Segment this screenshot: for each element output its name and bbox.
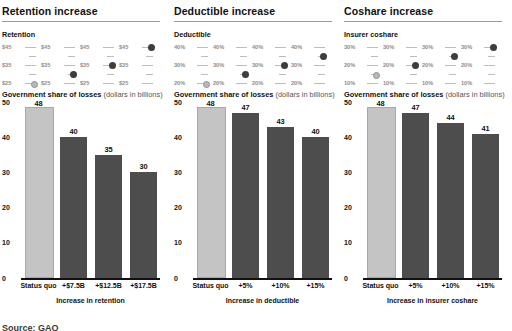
scale-column-status-quo: $45$35$25 [2, 43, 41, 83]
scale-tick-major: 40% [174, 43, 213, 52]
scale-tick-label: 20% [174, 79, 185, 88]
scale-tick-minor [461, 52, 500, 61]
scale-tick-label: 30% [461, 43, 472, 52]
scale-tick-mark [201, 56, 208, 57]
scale-tick-minor [291, 70, 330, 79]
y-axis-tick-30: 30 [2, 169, 17, 176]
scale-tick-label: $35 [2, 61, 11, 70]
scale-tick-label: 20% [461, 61, 472, 70]
scale-tick-label: $25 [119, 79, 128, 88]
bar-15[interactable] [472, 134, 499, 278]
scale-tick-major: $25 [119, 79, 158, 88]
x-axis-line [363, 278, 502, 280]
y-axis-tick-30: 30 [174, 169, 189, 176]
scale-tick-major: 20% [344, 61, 383, 70]
scale-tick-minor [119, 52, 158, 61]
scale-indicator: 30%20%10%30%20%10%30%20%10%30%20%10% [344, 43, 502, 83]
scale-tick-mark [107, 56, 114, 57]
scale-tick-major: $45 [80, 43, 119, 52]
source-note: Source: GAO [2, 323, 59, 331]
scale-tick-minor [41, 52, 80, 61]
scale-tick-mark [103, 47, 114, 48]
scale-tick-label: 20% [213, 79, 224, 88]
scale-tick-mark [314, 47, 325, 48]
bar-value-label: 47 [228, 103, 263, 112]
y-axis-tick-20: 20 [174, 204, 189, 211]
bar-status-quo[interactable] [25, 107, 54, 278]
scale-dot-5 [412, 62, 419, 69]
bar-12-5b[interactable] [95, 155, 122, 278]
chart-heading-units: (dollars in billions) [273, 90, 334, 99]
scale-tick-mark [146, 56, 153, 57]
scale-tick-minor [461, 70, 500, 79]
y-axis-tick-0: 0 [2, 275, 17, 282]
bar-value-label: 48 [193, 99, 228, 108]
scale-tick-major: 30% [291, 61, 330, 70]
bar-5[interactable] [402, 113, 429, 278]
scale-tick-major: 30% [344, 43, 383, 52]
x-axis-line [21, 278, 160, 280]
scale-column-status-quo: 30%20%10% [344, 43, 383, 83]
scale-tick-minor [344, 52, 383, 61]
scale-dot-10 [451, 53, 458, 60]
y-axis-tick-40: 40 [344, 134, 359, 141]
scale-tick-mark [29, 56, 36, 57]
scale-tick-mark [484, 65, 495, 66]
bar-value-label: 41 [468, 124, 503, 133]
scale-column-7-5b: $45$35$25 [41, 43, 80, 83]
scale-tick-mark [275, 83, 286, 84]
scale-tick-label: $45 [2, 43, 11, 52]
bar-7-5b[interactable] [60, 137, 87, 278]
panel-title: Retention increase [2, 0, 166, 17]
bar-value-label: 48 [21, 99, 56, 108]
scale-tick-mark [64, 83, 75, 84]
scale-tick-minor [80, 52, 119, 61]
y-axis-tick-10: 10 [174, 239, 189, 246]
bar-15[interactable] [302, 137, 329, 278]
bar-10[interactable] [267, 127, 294, 278]
scale-tick-label: 20% [252, 79, 263, 88]
scale-indicator: $45$35$25$45$35$25$45$35$25$45$35$25 [2, 43, 160, 83]
scale-tick-mark [64, 65, 75, 66]
y-axis-tick-0: 0 [344, 275, 359, 282]
scale-dot-17-5b [148, 44, 155, 51]
scale-tick-label: 40% [213, 43, 224, 52]
x-axis-category-15: +15% [464, 282, 508, 289]
scale-dot-status-quo [31, 81, 38, 88]
chart-heading-units: (dollars in billions) [101, 90, 162, 99]
bar-5[interactable] [232, 113, 259, 278]
scale-tick-label: 10% [422, 79, 433, 88]
scale-tick-mark [236, 47, 247, 48]
scale-tick-mark [488, 56, 495, 57]
scale-tick-mark [68, 56, 75, 57]
scale-tick-mark [25, 47, 36, 48]
y-axis-tick-30: 30 [344, 169, 359, 176]
scale-tick-major: 30% [213, 61, 252, 70]
scale-dot-15 [490, 44, 497, 51]
scale-tick-mark [445, 83, 456, 84]
y-axis-tick-40: 40 [2, 134, 17, 141]
scale-tick-label: $25 [41, 79, 50, 88]
scale-tick-major: 10% [383, 79, 422, 88]
scale-dot-5 [242, 71, 249, 78]
scale-tick-mark [107, 74, 114, 75]
bar-10[interactable] [437, 123, 464, 278]
scale-tick-label: 30% [252, 61, 263, 70]
y-axis-tick-50: 50 [174, 99, 189, 106]
scale-dot-status-quo [203, 81, 210, 88]
scale-tick-mark [25, 65, 36, 66]
scale-tick-mark [236, 65, 247, 66]
bar-17-5b[interactable] [130, 172, 157, 278]
scale-tick-major: 10% [422, 79, 461, 88]
scale-tick-label: 40% [174, 43, 185, 52]
bar-status-quo[interactable] [197, 107, 226, 278]
scale-tick-label: 20% [344, 61, 355, 70]
bar-status-quo[interactable] [367, 107, 396, 278]
scale-tick-minor [2, 70, 41, 79]
chart-sheet: Retention increaseRetention$45$35$25$45$… [0, 0, 512, 331]
bar-value-label: 40 [298, 127, 333, 136]
y-axis-tick-20: 20 [2, 204, 17, 211]
scale-tick-major: $35 [119, 61, 158, 70]
scale-tick-major: $45 [2, 43, 41, 52]
scale-tick-mark [279, 56, 286, 57]
